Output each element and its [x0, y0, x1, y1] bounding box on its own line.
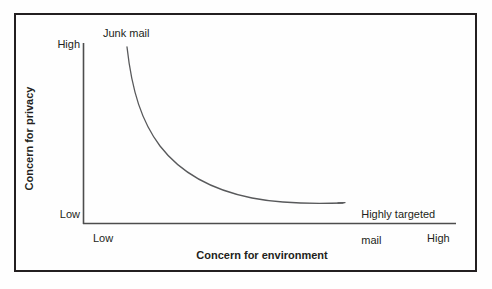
annotation-line-2: mail — [361, 234, 381, 246]
annotation-highly-targeted-mail: Highly targeted mail — [349, 195, 454, 260]
y-tick-label-low: Low — [56, 208, 80, 221]
annotation-line-1: Highly targeted — [361, 208, 435, 220]
annotation-junk-mail: Junk mail — [103, 27, 149, 40]
y-tick-label-high: High — [56, 38, 80, 51]
x-axis-title: Concern for environment — [152, 249, 372, 262]
figure-container: Concern for privacy Concern for environm… — [0, 0, 492, 289]
y-axis-title: Concern for privacy — [23, 69, 36, 209]
x-tick-label-low: Low — [93, 232, 113, 245]
